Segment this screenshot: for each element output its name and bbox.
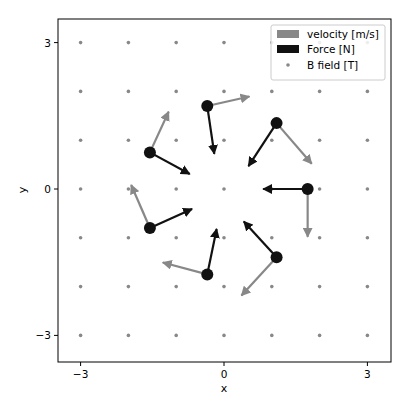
b-field-dot [79, 41, 83, 45]
b-field-dot [366, 285, 370, 289]
b-field-dot [222, 138, 226, 142]
b-field-dot [366, 334, 370, 338]
b-field-dot [318, 90, 322, 94]
b-field-dot [222, 187, 226, 191]
b-field-dot [127, 138, 131, 142]
b-field-dot [270, 236, 274, 240]
particle [144, 146, 156, 158]
legend: velocity [m/s] Force [N] B field [T] [271, 25, 385, 80]
particle [201, 268, 213, 280]
y-tick-label: 3 [44, 37, 51, 49]
b-field-dot [222, 41, 226, 45]
y-tick-label: 0 [44, 183, 51, 195]
x-tick-label: −3 [73, 368, 88, 380]
quiver-chart: −303 −303 x y velocity [m/s] Force [N] B… [0, 0, 412, 416]
legend-bfield-dot [286, 63, 290, 67]
b-field-dot [366, 236, 370, 240]
b-field-dot [127, 285, 131, 289]
particle [302, 183, 314, 195]
b-field-dot [270, 334, 274, 338]
b-field-dot [79, 90, 83, 94]
b-field-dot [318, 187, 322, 191]
b-field-dot [318, 236, 322, 240]
legend-force-label: Force [N] [307, 43, 355, 55]
b-field-dot [222, 236, 226, 240]
x-axis-ticks: −303 [73, 362, 371, 380]
b-field-dot [174, 138, 178, 142]
legend-velocity-label: velocity [m/s] [307, 28, 379, 40]
b-field-dot [174, 236, 178, 240]
b-field-dot [366, 90, 370, 94]
b-field-dot [222, 90, 226, 94]
x-axis-label: x [221, 382, 228, 395]
b-field-dot [366, 187, 370, 191]
y-axis-label: y [16, 186, 29, 193]
b-field-dot [174, 334, 178, 338]
b-field-dot [366, 138, 370, 142]
b-field-dot [79, 285, 83, 289]
particle [271, 251, 283, 263]
b-field-dot [222, 285, 226, 289]
b-field-dot [174, 90, 178, 94]
b-field-dot [318, 138, 322, 142]
b-field-dot [174, 187, 178, 191]
b-field-dot [270, 285, 274, 289]
b-field-dot [318, 285, 322, 289]
b-field-dot [127, 41, 131, 45]
b-field-dot [318, 334, 322, 338]
x-tick-label: 0 [221, 368, 228, 380]
particle [271, 117, 283, 129]
legend-bfield-label: B field [T] [307, 59, 358, 71]
particle [201, 100, 213, 112]
y-tick-label: −3 [36, 329, 51, 341]
b-field-dot [127, 187, 131, 191]
b-field-dot [222, 334, 226, 338]
b-field-dot [174, 41, 178, 45]
b-field-dot [127, 90, 131, 94]
legend-velocity-swatch [277, 30, 299, 38]
legend-force-swatch [277, 45, 299, 53]
b-field-dot [79, 236, 83, 240]
b-field-dot [79, 187, 83, 191]
b-field-dot [127, 334, 131, 338]
b-field-dot [79, 138, 83, 142]
b-field-dot [270, 138, 274, 142]
b-field-dot [127, 236, 131, 240]
y-axis-ticks: −303 [36, 37, 58, 342]
x-tick-label: 3 [364, 368, 371, 380]
particle [144, 222, 156, 234]
b-field-dot [270, 90, 274, 94]
b-field-dot [174, 285, 178, 289]
b-field-dot [79, 334, 83, 338]
